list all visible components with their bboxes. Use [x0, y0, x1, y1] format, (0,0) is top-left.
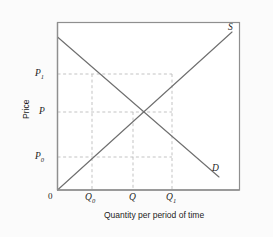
supply-demand-figure: P1 P P0 Q0 Q Q1 0 S D Quantity per perio… — [0, 0, 273, 237]
x-axis-title: Quantity per period of time — [104, 211, 204, 220]
y-axis-title: Price — [22, 86, 31, 132]
demand-curve-label: D — [212, 164, 219, 174]
y-tick-label-p1: P1 — [35, 69, 44, 80]
chart-canvas — [0, 0, 273, 237]
x-tick-label-q: Q — [129, 193, 136, 203]
origin-label: 0 — [48, 192, 53, 201]
x-tick-label-q1: Q1 — [166, 193, 176, 204]
x-tick-label-q0: Q0 — [85, 193, 95, 204]
supply-curve-label: S — [228, 23, 233, 33]
y-tick-label-p: P — [39, 107, 45, 117]
y-tick-label-p0: P0 — [35, 152, 44, 163]
